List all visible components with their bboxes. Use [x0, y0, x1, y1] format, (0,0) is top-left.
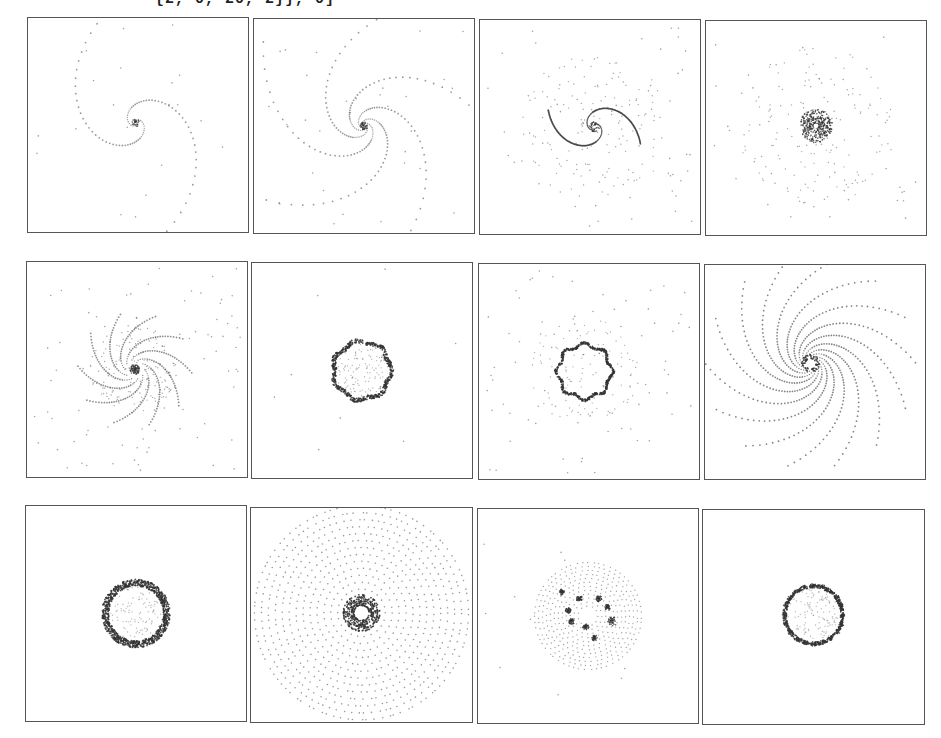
- particle-plot-polygon-ring: [479, 264, 699, 479]
- particle-plot-dense-core: [706, 21, 926, 235]
- particle-plot-ring: [252, 263, 472, 478]
- particle-plot-beaded-ring: [703, 510, 924, 724]
- particle-plot-concentric-core: [251, 508, 472, 722]
- particle-plot-two-arm-spiral-tight: [480, 20, 700, 234]
- graphics-panel-3[interactable]: [479, 19, 701, 235]
- graphics-panel-8[interactable]: [704, 264, 926, 480]
- graphics-panel-6[interactable]: [251, 262, 473, 479]
- graphics-panel-7[interactable]: [478, 263, 700, 480]
- graphics-panel-4[interactable]: [705, 20, 927, 236]
- particle-plot-clumped-disk: [478, 509, 698, 723]
- particle-plot-two-arm-spiral-sparse: [28, 18, 248, 232]
- particle-plot-swirl-disk: [27, 262, 247, 477]
- graphics-panel-12[interactable]: [702, 509, 925, 725]
- graphics-panel-11[interactable]: [477, 508, 699, 724]
- particle-plot-many-arm-spiral: [705, 265, 925, 479]
- graphics-panel-1[interactable]: [27, 17, 249, 233]
- notebook-input-tail: {2, 0, 20, 2}}, 0]: [155, 0, 335, 8]
- particle-plot-thick-ring: [26, 506, 246, 721]
- graphics-panel-10[interactable]: [250, 507, 473, 723]
- graphics-panel-5[interactable]: [26, 261, 248, 478]
- particle-plot-multi-arm-spiral: [254, 19, 474, 233]
- graphics-panel-2[interactable]: [253, 18, 475, 234]
- graphics-panel-9[interactable]: [25, 505, 247, 722]
